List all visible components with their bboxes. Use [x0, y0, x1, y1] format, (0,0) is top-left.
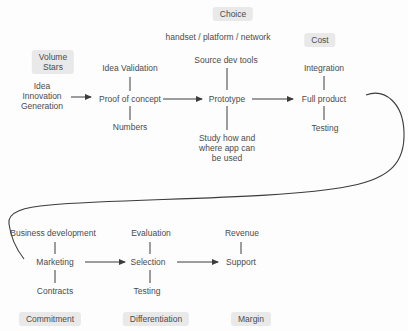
label-choice: Choice	[213, 7, 253, 21]
node-selection: Selection	[131, 257, 166, 267]
node-testing-bottom: Testing	[134, 286, 161, 296]
node-study-usage: Study how and where app can be used	[199, 133, 255, 163]
node-handset-platform-network: handset / platform / network	[166, 32, 271, 42]
label-commitment: Commitment	[19, 312, 81, 326]
label-differentiation: Differentiation	[123, 312, 189, 326]
node-business-development: Business development	[10, 228, 96, 238]
node-revenue: Revenue	[225, 228, 259, 238]
node-prototype: Prototype	[209, 94, 245, 104]
label-volume-stars: Volume Stars	[32, 50, 74, 74]
diagram-canvas: Choice Volume Stars Cost Commitment Diff…	[0, 0, 408, 331]
label-cost: Cost	[304, 33, 335, 47]
node-marketing: Marketing	[36, 257, 73, 267]
node-numbers: Numbers	[113, 122, 147, 132]
node-testing-top: Testing	[312, 123, 339, 133]
label-margin: Margin	[231, 312, 271, 326]
node-evaluation: Evaluation	[131, 228, 171, 238]
node-source-dev-tools: Source dev tools	[194, 55, 257, 65]
node-proof-of-concept: Proof of concept	[99, 94, 161, 104]
node-integration: Integration	[304, 63, 344, 73]
node-full-product: Full product	[302, 94, 346, 104]
node-contracts: Contracts	[37, 286, 73, 296]
node-support: Support	[226, 257, 256, 267]
node-idea-innovation-generation: Idea Innovation Generation	[21, 81, 63, 111]
node-idea-validation: Idea Validation	[102, 63, 158, 73]
